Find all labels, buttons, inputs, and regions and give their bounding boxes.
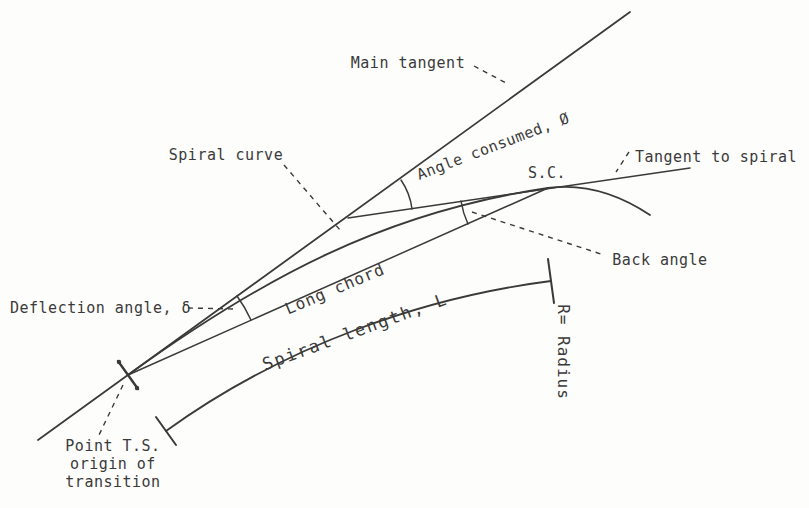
sc-point-label: S.C. xyxy=(528,164,566,182)
circular-curve-continuation-line xyxy=(548,187,650,215)
angle-consumed-arc xyxy=(401,180,412,209)
point-ts-label-line2: origin of xyxy=(70,455,156,473)
deflection-angle-label: Deflection angle, δ xyxy=(10,299,191,317)
point-ts-label-line1: Point T.S. xyxy=(65,437,160,455)
tangent-to-spiral-line xyxy=(348,168,690,218)
radius-label: R= Radius xyxy=(554,304,573,400)
tangent-to-spiral-leader xyxy=(616,152,629,172)
ts-station-tick xyxy=(118,361,138,389)
back-angle-label: Back angle xyxy=(612,251,707,269)
spiral-length-dimension-arc xyxy=(166,281,551,431)
main-tangent-label: Main tangent xyxy=(351,54,465,72)
tangent-to-spiral-label: Tangent to spiral xyxy=(635,148,797,166)
deflection-angle-leader xyxy=(188,308,236,309)
deflection-angle-arc xyxy=(237,296,251,320)
point-ts-label-line3: transition xyxy=(65,473,160,491)
spiral-curve-diagram: Main tangent Spiral curve Angle consumed… xyxy=(0,0,809,508)
diagram-canvas: Main tangent Spiral curve Angle consumed… xyxy=(0,0,809,508)
spiral-curve-leader xyxy=(284,165,340,230)
ts-tick-end-dot xyxy=(117,360,121,364)
main-tangent-line xyxy=(38,12,630,440)
main-tangent-leader xyxy=(474,66,508,84)
ts-tick-end-dot xyxy=(135,386,139,390)
back-angle-leader xyxy=(472,212,604,255)
spiral-curve-label: Spiral curve xyxy=(169,146,283,164)
